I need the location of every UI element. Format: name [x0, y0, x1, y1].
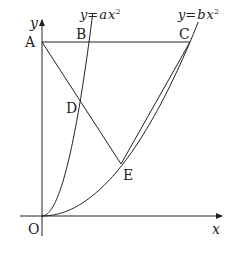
point-b-label: B — [76, 26, 86, 42]
segment-ae — [42, 42, 121, 164]
parabola-diagram: y x O A B C D E y=ax2 y=bx2 — [0, 0, 232, 253]
point-e-label: E — [123, 167, 133, 183]
equation-y-ax2: y=ax2 — [79, 7, 120, 22]
point-d-label: D — [66, 100, 77, 116]
segment-ce — [121, 42, 190, 164]
y-axis-label: y — [29, 15, 39, 31]
point-a-label: A — [24, 34, 36, 50]
point-c-label: C — [179, 26, 190, 42]
origin-label: O — [28, 221, 39, 237]
x-axis-label: x — [212, 221, 220, 237]
curve-y-bx2 — [42, 22, 198, 216]
equation-y-bx2: y=bx2 — [177, 7, 219, 22]
